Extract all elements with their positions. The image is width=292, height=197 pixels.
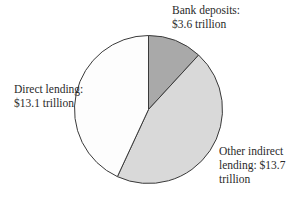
label-bank-deposits-line1: Bank deposits: bbox=[172, 3, 240, 17]
label-other-indirect-lending: Other indirect lending: $13.7 trillion bbox=[219, 144, 285, 186]
label-other-indirect-line1: Other indirect bbox=[219, 144, 285, 158]
label-other-indirect-line2: lending: $13.7 bbox=[219, 158, 285, 172]
label-bank-deposits: Bank deposits: $3.6 trillion bbox=[172, 3, 240, 31]
label-direct-lending: Direct lending: $13.1 trillion bbox=[14, 82, 83, 110]
label-other-indirect-line3: trillion bbox=[219, 172, 285, 186]
label-direct-lending-line1: Direct lending: bbox=[14, 82, 83, 96]
label-bank-deposits-line2: $3.6 trillion bbox=[172, 17, 240, 31]
pie-slices bbox=[74, 35, 222, 183]
label-direct-lending-line2: $13.1 trillion bbox=[14, 96, 83, 110]
